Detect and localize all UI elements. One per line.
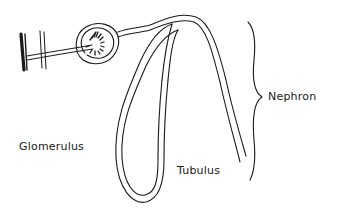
afferent-vessel: [27, 45, 93, 60]
nephron-label: Nephron: [268, 90, 316, 103]
nephron-diagram: [0, 0, 344, 216]
tubulus-label: Tubulus: [177, 164, 220, 177]
glomerulus-label: Glomerulus: [19, 140, 84, 153]
bowman-capsule: [76, 24, 119, 64]
glomerulus-tuft: [86, 32, 104, 55]
nephron-brace: [248, 22, 262, 180]
blood-vessel: [21, 31, 46, 70]
